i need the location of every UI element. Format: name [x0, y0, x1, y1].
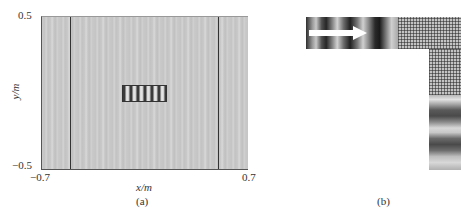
- y-tick-bottom: −0.5: [12, 160, 32, 171]
- caption-b: (b): [377, 196, 390, 207]
- panel-b: [306, 17, 461, 170]
- arrow-right-icon: [309, 26, 369, 40]
- caption-a: (a): [136, 196, 148, 207]
- x-axis-label: x/m: [136, 182, 152, 193]
- x-tick-right: 0.7: [242, 172, 256, 183]
- y-tick-top: 0.5: [18, 10, 32, 21]
- x-tick-left: −0.7: [30, 172, 50, 183]
- boundary-line-left: [70, 17, 71, 169]
- mesh-corner-horizontal: [398, 17, 461, 49]
- mesh-corner-vertical: [429, 49, 461, 95]
- y-axis-label: y/m: [10, 84, 21, 100]
- boundary-line-right: [218, 17, 219, 169]
- plot-a-field: [41, 16, 248, 170]
- vertical-waveguide: [429, 95, 461, 170]
- scatterer-rectangle: [122, 85, 167, 102]
- horizontal-waveguide: [306, 17, 398, 49]
